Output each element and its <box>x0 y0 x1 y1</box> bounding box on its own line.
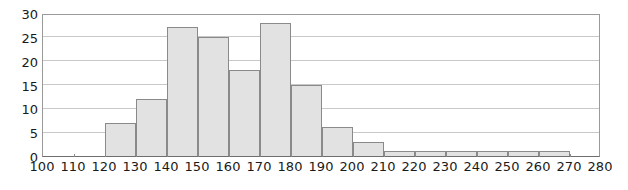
y-tick-label-10: 10 <box>2 103 38 116</box>
x-tick-mark-160 <box>229 154 230 157</box>
bar-150-160 <box>198 37 229 156</box>
x-tick-mark-110 <box>74 154 75 157</box>
x-tick-mark-240 <box>477 154 478 157</box>
y-tick-label-25: 25 <box>2 31 38 44</box>
bar-220-230 <box>415 151 446 156</box>
histogram-chart: 051015202530 100110120130140150160170180… <box>0 0 628 190</box>
bars-container <box>43 15 599 156</box>
x-tick-label-150: 150 <box>185 160 210 173</box>
x-tick-label-200: 200 <box>340 160 365 173</box>
x-tick-mark-200 <box>353 154 354 157</box>
y-tick-label-20: 20 <box>2 55 38 68</box>
bar-200-210 <box>353 142 384 156</box>
y-tick-label-15: 15 <box>2 79 38 92</box>
x-tick-label-230: 230 <box>433 160 458 173</box>
x-tick-label-140: 140 <box>154 160 179 173</box>
x-tick-label-280: 280 <box>588 160 613 173</box>
bar-240-250 <box>477 151 508 156</box>
x-tick-label-190: 190 <box>309 160 334 173</box>
bar-170-180 <box>260 23 291 156</box>
x-tick-mark-270 <box>570 154 571 157</box>
y-tick-label-30: 30 <box>2 8 38 21</box>
x-tick-mark-150 <box>198 154 199 157</box>
x-tick-mark-260 <box>539 154 540 157</box>
x-tick-mark-220 <box>415 154 416 157</box>
bar-260-270 <box>539 151 570 156</box>
x-tick-mark-130 <box>136 154 137 157</box>
x-tick-label-110: 110 <box>61 160 86 173</box>
bar-120-130 <box>105 123 136 156</box>
x-tick-mark-230 <box>446 154 447 157</box>
y-tick-label-5: 5 <box>2 127 38 140</box>
bar-180-190 <box>291 85 322 157</box>
bar-210-220 <box>384 151 415 156</box>
x-tick-mark-120 <box>105 154 106 157</box>
x-tick-label-130: 130 <box>123 160 148 173</box>
x-tick-mark-250 <box>508 154 509 157</box>
x-tick-mark-180 <box>291 154 292 157</box>
x-tick-label-220: 220 <box>402 160 427 173</box>
x-tick-label-180: 180 <box>278 160 303 173</box>
x-tick-label-250: 250 <box>495 160 520 173</box>
x-tick-label-100: 100 <box>30 160 55 173</box>
bar-140-150 <box>167 27 198 156</box>
bar-250-260 <box>508 151 539 156</box>
x-tick-label-160: 160 <box>216 160 241 173</box>
x-tick-label-240: 240 <box>464 160 489 173</box>
bar-160-170 <box>229 70 260 156</box>
x-tick-label-120: 120 <box>92 160 117 173</box>
bar-190-200 <box>322 127 353 156</box>
x-tick-label-270: 270 <box>557 160 582 173</box>
x-tick-label-170: 170 <box>247 160 272 173</box>
plot-area <box>42 14 600 157</box>
bar-230-240 <box>446 151 477 156</box>
x-tick-mark-190 <box>322 154 323 157</box>
x-axis: 1001101201301401501601701801902002102202… <box>42 160 600 184</box>
x-tick-mark-210 <box>384 154 385 157</box>
x-tick-label-260: 260 <box>526 160 551 173</box>
x-tick-mark-140 <box>167 154 168 157</box>
x-tick-label-210: 210 <box>371 160 396 173</box>
bar-130-140 <box>136 99 167 156</box>
x-tick-mark-170 <box>260 154 261 157</box>
